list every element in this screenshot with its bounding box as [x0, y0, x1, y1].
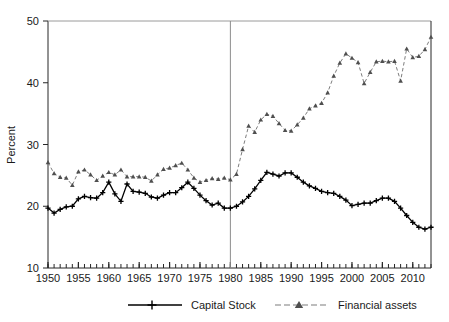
x-axis-tick-label: 2010	[401, 272, 425, 284]
x-axis-tick-label: 1990	[279, 272, 303, 284]
x-axis-tick-label: 1960	[97, 272, 121, 284]
legend-label-capital-stock: Capital Stock	[191, 299, 256, 311]
y-axis-title: Percent	[5, 126, 17, 164]
x-axis-tick-label: 1950	[36, 272, 60, 284]
x-axis-tick-label: 1995	[309, 272, 333, 284]
y-axis-tick-label: 30	[27, 139, 39, 151]
y-axis-tick-label: 40	[27, 77, 39, 89]
x-axis-tick-label: 2000	[340, 272, 364, 284]
x-axis-tick-label: 1980	[218, 272, 242, 284]
x-axis-tick-label: 1955	[66, 272, 90, 284]
line-chart: 1020304050 19501955196019651970197519801…	[0, 0, 449, 322]
x-axis-tick-label: 2005	[370, 272, 394, 284]
x-axis-tick-label: 1970	[157, 272, 181, 284]
y-axis-tick-label: 20	[27, 200, 39, 212]
x-axis-tick-label: 1965	[127, 272, 151, 284]
x-axis-tick-label: 1985	[249, 272, 273, 284]
y-axis-tick-label: 50	[27, 15, 39, 27]
chart-container: 1020304050 19501955196019651970197519801…	[0, 0, 449, 322]
x-axis-tick-label: 1975	[188, 272, 212, 284]
legend-label-financial-assets: Financial assets	[338, 299, 417, 311]
